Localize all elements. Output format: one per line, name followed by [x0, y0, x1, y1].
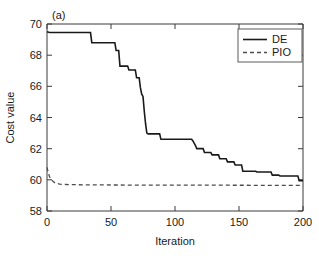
x-tick-label-200: 200 [294, 216, 312, 228]
legend[interactable]: DE PIO [238, 29, 302, 62]
y-tick-64: 64 [30, 112, 303, 124]
series-line-pio [47, 167, 303, 185]
y-tick-label-68: 68 [30, 49, 42, 61]
y-tick-label-70: 70 [30, 18, 42, 30]
y-tick-label-64: 64 [30, 112, 42, 124]
legend-box [238, 29, 302, 62]
y-tick-label-58: 58 [30, 205, 42, 217]
panel-label: (a) [52, 9, 65, 21]
y-axis-title: Cost value [4, 92, 16, 144]
x-tick-50: 50 [105, 24, 117, 228]
cost-convergence-chart: (a) 70 68 66 [0, 0, 319, 262]
x-tick-label-100: 100 [166, 216, 184, 228]
x-tick-label-0: 0 [44, 216, 50, 228]
y-tick-66: 66 [30, 80, 303, 92]
figure-panel-a: (a) 70 68 66 [0, 0, 319, 262]
legend-label-pio: PIO [272, 46, 291, 58]
x-tick-label-150: 150 [230, 216, 248, 228]
y-tick-label-62: 62 [30, 143, 42, 155]
x-tick-100: 100 [166, 24, 184, 228]
y-tick-label-60: 60 [30, 174, 42, 186]
legend-label-de: DE [272, 33, 287, 45]
y-tick-label-66: 66 [30, 80, 42, 92]
y-tick-60: 60 [30, 174, 303, 186]
x-axis-title: Iteration [155, 235, 195, 247]
y-tick-62: 62 [30, 143, 303, 155]
x-tick-label-50: 50 [105, 216, 117, 228]
